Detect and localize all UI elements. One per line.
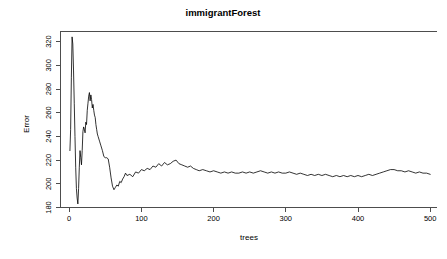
x-tick-label-100: 100 [135,214,148,223]
x-axis-tick-labels: 0 100 200 300 400 500 [67,214,436,223]
error-vs-trees-line-chart: immigrantForest 180 200 220 240 260 280 … [0,0,447,259]
y-tick-label-180: 180 [44,201,53,214]
error-series-line [70,37,430,204]
y-tick-label-300: 300 [44,59,53,72]
x-axis-ticks [69,208,430,212]
x-tick-label-200: 200 [207,214,220,223]
y-tick-label-240: 240 [44,130,53,143]
x-tick-label-300: 300 [280,214,293,223]
x-tick-label-400: 400 [352,214,365,223]
x-tick-label-500: 500 [424,214,437,223]
chart-title: immigrantForest [186,7,262,18]
y-axis-ticks [56,42,60,208]
y-axis-title: Error [22,115,31,133]
y-tick-label-200: 200 [44,178,53,191]
x-axis-title: trees [240,233,258,242]
y-tick-label-280: 280 [44,83,53,96]
y-axis-tick-labels: 180 200 220 240 260 280 300 320 [44,35,53,213]
y-tick-label-320: 320 [44,35,53,48]
y-tick-label-260: 260 [44,106,53,119]
x-tick-label-0: 0 [67,214,71,223]
chart-container: immigrantForest 180 200 220 240 260 280 … [0,0,447,259]
y-tick-label-220: 220 [44,154,53,167]
